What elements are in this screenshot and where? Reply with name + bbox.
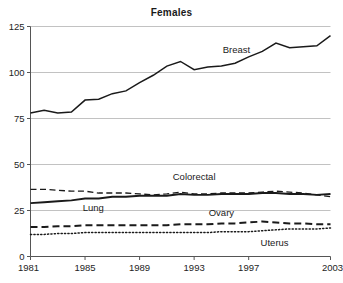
series-line-ovary (31, 222, 331, 228)
series-annotations: BreastColorectalLungOvaryUterus (83, 44, 289, 248)
series-line-lung (31, 193, 331, 203)
y-axis-tick-label: 0 (19, 251, 24, 262)
series-line-uterus (31, 228, 331, 234)
line-chart-plot: 0255075100125 198119851989199319972003 B… (0, 0, 343, 283)
series-line-breast (31, 36, 331, 113)
x-axis-tick-label: 2003 (322, 262, 343, 273)
y-axis-ticks: 0255075100125 (9, 21, 31, 262)
gridlines (31, 27, 331, 211)
x-axis-tick-label: 1985 (74, 262, 95, 273)
y-axis-tick-label: 50 (14, 159, 25, 170)
x-axis-tick-label: 1989 (129, 262, 150, 273)
annotation-ovary: Ovary (209, 207, 235, 218)
x-axis-tick-label: 1993 (184, 262, 205, 273)
annotation-breast: Breast (223, 44, 251, 55)
y-axis-tick-label: 125 (9, 21, 25, 32)
data-series (31, 36, 331, 235)
annotation-uterus: Uterus (261, 237, 289, 248)
annotation-colorectal: Colorectal (173, 171, 216, 182)
y-axis-tick-label: 75 (14, 113, 25, 124)
x-axis-ticks: 198119851989199319972003 (18, 257, 343, 273)
annotation-lung: Lung (83, 202, 104, 213)
x-axis-tick-label: 1981 (18, 262, 39, 273)
x-axis-tick-label: 1997 (238, 262, 259, 273)
y-axis-tick-label: 25 (14, 205, 25, 216)
chart-container: Females 0255075100125 198119851989199319… (0, 0, 343, 283)
y-axis-tick-label: 100 (9, 67, 25, 78)
